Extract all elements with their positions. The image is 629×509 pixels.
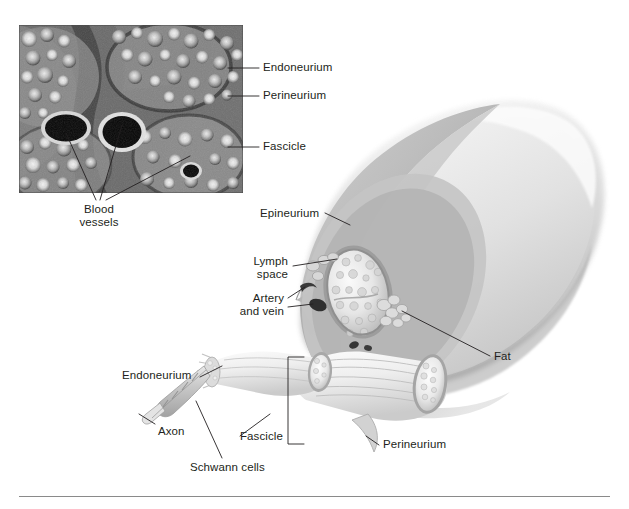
- label-endoneurium-lower: Endoneurium: [122, 369, 192, 382]
- label-schwann-cells: Schwann cells: [190, 461, 265, 474]
- axon-tip: [142, 403, 165, 424]
- leader-blood-vessel-1: [66, 133, 96, 200]
- nerve-illustration: [0, 0, 629, 509]
- leader-blood-vessel-2: [100, 125, 122, 200]
- fascicle-stub-upper-left: [197, 351, 334, 396]
- label-fascicle: Fascicle: [263, 140, 306, 153]
- leader-blood-vessel-3: [106, 156, 190, 200]
- label-axon: Axon: [158, 425, 185, 438]
- figure-canvas: Endoneurium Perineurium Fascicle Blood v…: [0, 0, 629, 509]
- label-epineurium: Epineurium: [260, 207, 319, 220]
- leader-schwann-cells: [196, 401, 222, 458]
- label-fat: Fat: [494, 350, 511, 363]
- label-endoneurium: Endoneurium: [263, 61, 333, 74]
- label-artery-and-vein: Artery and vein: [140, 292, 284, 318]
- label-blood-vessels: Blood vessels: [60, 203, 138, 229]
- perineurium-flap: [352, 414, 377, 452]
- label-perineurium-lower: Perineurium: [383, 438, 446, 451]
- page-divider-rule: [19, 496, 610, 497]
- label-fascicle-lower: Fascicle: [240, 430, 283, 443]
- label-perineurium: Perineurium: [263, 89, 326, 102]
- label-lymph-space: Lymph space: [150, 255, 288, 281]
